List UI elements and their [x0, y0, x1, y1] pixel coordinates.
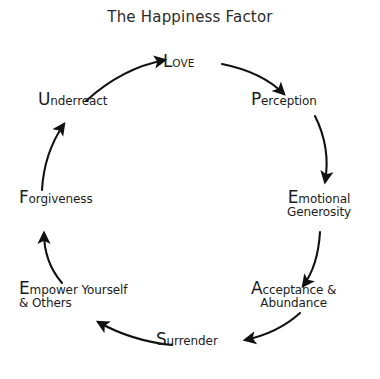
cycle-node-emotional-line2: Generosity [287, 206, 351, 219]
arrow-acceptance-to-surrender [245, 313, 300, 340]
cycle-node-surrender[interactable]: Surrender [156, 330, 218, 348]
cycle-node-acceptance-cap: A [251, 278, 262, 298]
cycle-node-forgiveness[interactable]: Forgiveness [19, 188, 93, 206]
cycle-node-love-cap: L [163, 51, 172, 71]
diagram-canvas: The Happiness Factor LOVE Perception Emo… [0, 0, 380, 379]
cycle-node-underreact-cap: U [38, 89, 50, 109]
cycle-node-emotional-rest: motional [298, 192, 350, 206]
cycle-node-empower-rest: mpower Yourself [30, 283, 128, 297]
cycle-node-surrender-rest: urrender [167, 334, 218, 348]
cycle-node-perception-rest: erception [261, 94, 317, 108]
cycle-node-acceptance-rest: cceptance & [262, 283, 336, 297]
cycle-node-perception-cap: P [251, 89, 261, 109]
arrow-empower-to-forgiveness [44, 233, 62, 283]
arrow-perception-to-emotional [315, 116, 327, 182]
cycle-node-emotional-generosity[interactable]: Emotional Generosity [287, 188, 351, 219]
cycle-node-acceptance-line2: Abundance [251, 297, 336, 310]
cycle-node-forgiveness-rest: orgiveness [29, 192, 93, 206]
cycle-node-underreact[interactable]: Underreact [38, 90, 107, 108]
cycle-node-forgiveness-cap: F [19, 187, 29, 207]
cycle-node-surrender-cap: S [156, 329, 167, 349]
cycle-node-love-rest: OVE [172, 57, 194, 69]
arrow-emotional-to-acceptance [303, 232, 320, 286]
cycle-node-acceptance-abundance[interactable]: Acceptance & Abundance [251, 279, 336, 310]
cycle-node-perception[interactable]: Perception [251, 90, 317, 108]
cycle-node-love[interactable]: LOVE [163, 52, 194, 70]
cycle-node-emotional-cap: E [288, 187, 299, 207]
cycle-node-empower-yourself-others[interactable]: Empower Yourself & Others [19, 279, 127, 310]
cycle-node-empower-line2: & Others [19, 297, 127, 310]
cycle-node-underreact-rest: nderreact [50, 94, 107, 108]
arrow-forgiveness-to-underreact [42, 124, 64, 190]
cycle-node-empower-cap: E [19, 278, 30, 298]
